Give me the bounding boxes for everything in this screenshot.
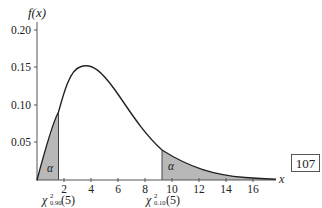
y-tick-label: 0.20 (11, 24, 31, 36)
x-tick-label: 14 (220, 183, 232, 195)
y-tick-label: 0.10 (11, 99, 31, 111)
x-tick-label: 16 (247, 183, 259, 195)
svg-text:χ: χ (41, 193, 48, 207)
upper-tail-area (162, 150, 273, 180)
y-axis-label: f(x) (28, 5, 46, 20)
x-axis-label: x (278, 172, 285, 186)
page-number-box: 107 (291, 154, 320, 172)
chi-square-chart: 0.20 0.15 0.10 0.05 2 4 6 8 10 12 14 16 … (0, 0, 322, 208)
svg-text:0.10: 0.10 (154, 199, 165, 206)
svg-text:(5): (5) (61, 193, 75, 207)
y-tick-label: 0.15 (11, 61, 31, 73)
y-tick-label: 0.05 (11, 136, 31, 148)
svg-text:0.90: 0.90 (50, 199, 61, 206)
density-curve (37, 66, 276, 180)
svg-text:χ: χ (145, 193, 152, 207)
upper-alpha-label: α (168, 160, 175, 172)
svg-text:(5): (5) (166, 193, 180, 207)
lower-critical-label: χ 2 0.90 (5) (41, 192, 75, 207)
x-tick-label: 4 (88, 183, 94, 195)
lower-alpha-label: α (47, 162, 54, 174)
upper-critical-label: χ 2 0.10 (5) (145, 192, 180, 207)
x-tick-label: 6 (115, 183, 121, 195)
x-tick-label: 12 (193, 183, 205, 195)
